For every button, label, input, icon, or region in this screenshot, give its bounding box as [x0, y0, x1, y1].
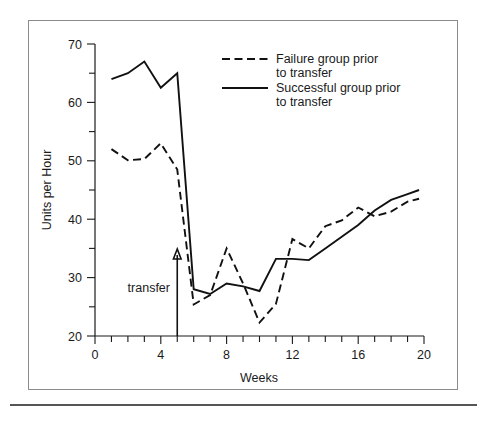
y-axis-tick-labels: 70 60 50 40 30 20 [68, 38, 82, 344]
legend-label-successful-line1: Successful group prior [276, 81, 400, 95]
x-axis-minor-ticks [111, 336, 407, 342]
series-line-failure-group [111, 143, 419, 322]
y-tick-label-20: 20 [68, 330, 82, 344]
x-tick-label-16: 16 [351, 348, 365, 362]
x-tick-label-0: 0 [92, 348, 99, 362]
line-chart: 70 60 50 40 30 20 Units per Hour [0, 0, 487, 425]
footer-horizontal-rule [10, 404, 477, 406]
y-axis-title: Units per Hour [40, 150, 54, 231]
y-tick-label-60: 60 [68, 96, 82, 110]
legend-label-failure-line2: to transfer [276, 66, 332, 80]
x-tick-label-8: 8 [223, 348, 230, 362]
x-axis-tick-labels: 0 4 8 12 16 20 [92, 348, 431, 362]
y-axis-minor-ticks [89, 73, 95, 307]
x-tick-label-12: 12 [285, 348, 299, 362]
chart-legend: Failure group prior to transfer Successf… [222, 52, 400, 109]
transfer-label: transfer [128, 281, 170, 295]
y-tick-label-40: 40 [68, 213, 82, 227]
x-tick-label-20: 20 [417, 348, 431, 362]
y-tick-label-70: 70 [68, 38, 82, 52]
y-tick-label-50: 50 [68, 154, 82, 168]
x-axis-title: Weeks [240, 371, 278, 385]
figure-container: 70 60 50 40 30 20 Units per Hour [0, 0, 487, 425]
series-line-successful-group [111, 62, 419, 294]
transfer-annotation: transfer [128, 249, 181, 336]
legend-label-successful-line2: to transfer [276, 95, 332, 109]
x-tick-label-4: 4 [157, 348, 164, 362]
y-tick-label-30: 30 [68, 271, 82, 285]
legend-label-failure-line1: Failure group prior [276, 52, 378, 66]
